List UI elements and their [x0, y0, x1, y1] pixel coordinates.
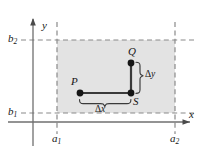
delta-y-label: Δy: [145, 70, 155, 80]
point-dot-P: [77, 90, 84, 97]
figure-canvas: y x b2 b1 a1 a2 P Q S Δx Δy: [0, 0, 205, 154]
diagram-graphics: [0, 0, 205, 154]
tick-label-a1-sub: 1: [58, 137, 62, 146]
x-axis-label: x: [189, 109, 194, 120]
point-dot-Q: [128, 60, 135, 67]
tick-label-a2: a2: [170, 133, 179, 146]
tick-label-b1-sub: 1: [14, 110, 18, 119]
y-axis-label: y: [42, 20, 47, 31]
point-label-P: P: [71, 76, 78, 87]
point-label-S: S: [133, 96, 139, 107]
tick-label-b1: b1: [8, 106, 17, 119]
delta-x-label: Δx: [95, 105, 105, 115]
tick-label-a1: a1: [52, 133, 61, 146]
x-axis-arrowhead: [183, 119, 191, 125]
tick-label-b2: b2: [8, 33, 17, 46]
tick-label-a2-sub: 2: [176, 137, 180, 146]
y-axis-arrowhead: [30, 18, 36, 26]
point-label-Q: Q: [128, 46, 136, 57]
delta-y-variable: y: [151, 69, 155, 79]
tick-label-b2-sub: 2: [14, 37, 18, 46]
delta-x-variable: x: [101, 104, 105, 114]
